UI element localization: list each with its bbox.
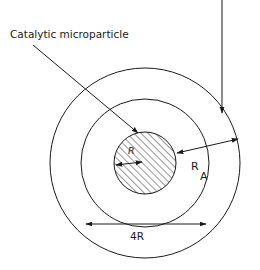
diagram-svg: Catalytic microparticle R R A 4R: [0, 0, 260, 270]
inner-radius-label: R: [128, 145, 135, 156]
annulus-radius-subscript: A: [200, 170, 208, 183]
microparticle-circle: [114, 132, 176, 194]
annulus-radius-label: R: [191, 160, 199, 173]
particle-label: Catalytic microparticle: [10, 28, 129, 40]
diameter-label: 4R: [130, 230, 144, 242]
diagram-canvas: Catalytic microparticle R R A 4R: [0, 0, 260, 270]
particle-pointer-arrow: [33, 45, 138, 133]
